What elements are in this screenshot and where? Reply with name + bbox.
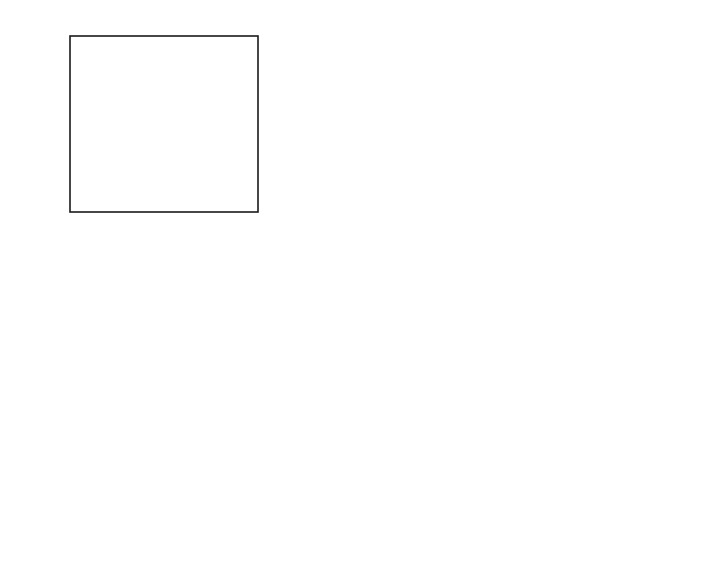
hexagon-pattern-svg	[228, 148, 684, 566]
page-root	[0, 0, 711, 581]
hexagon-pattern-figure	[228, 148, 684, 566]
